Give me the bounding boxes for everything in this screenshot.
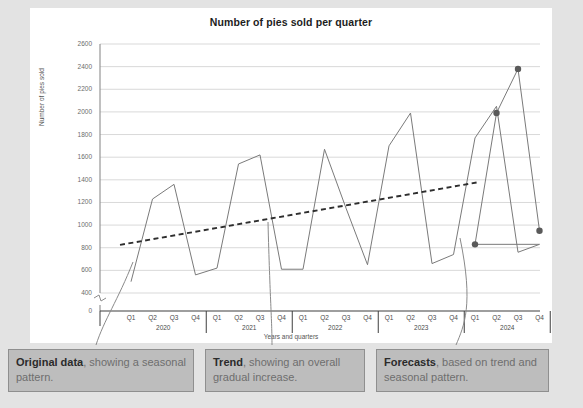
x-tick-label: Q1 xyxy=(206,314,228,321)
series-forecasts xyxy=(475,69,540,244)
y-tick-label: 1600 xyxy=(58,153,92,160)
x-tick-label: Q4 xyxy=(529,314,551,321)
y-tick-label: 1000 xyxy=(58,221,92,228)
y-tick-label: 2000 xyxy=(58,108,92,115)
x-year-label: 2020 xyxy=(118,324,208,331)
x-axis-label: Years and quarters xyxy=(30,333,552,340)
plot-area: Number of pies sold 04006008001000120014… xyxy=(30,8,552,343)
callout-emphasis: Original data xyxy=(16,356,83,368)
y-tick-label: 2400 xyxy=(58,63,92,70)
y-tick-label: 1800 xyxy=(58,131,92,138)
x-tick-label: Q1 xyxy=(120,314,142,321)
x-tick-label: Q2 xyxy=(400,314,422,321)
x-tick-label: Q2 xyxy=(142,314,164,321)
x-tick-label: Q1 xyxy=(464,314,486,321)
x-tick-label: Q4 xyxy=(271,314,293,321)
callout-emphasis: Trend xyxy=(213,356,243,368)
series-original-data xyxy=(131,106,540,281)
x-tick-label: Q2 xyxy=(486,314,508,321)
x-tick-label: Q3 xyxy=(335,314,357,321)
x-year-label: 2022 xyxy=(290,324,380,331)
x-tick-label: Q4 xyxy=(357,314,379,321)
y-tick-label: 2200 xyxy=(58,85,92,92)
y-tick-label: 2600 xyxy=(58,40,92,47)
y-tick-label: 400 xyxy=(58,289,92,296)
gridlines xyxy=(100,44,540,293)
x-tick-label: Q3 xyxy=(507,314,529,321)
callout-original-data: Original data, showing a seasonal patter… xyxy=(8,349,194,392)
x-year-label: 2021 xyxy=(204,324,294,331)
callout-emphasis: Forecasts xyxy=(384,356,436,368)
x-tick-label: Q3 xyxy=(249,314,271,321)
callout-forecasts: Forecasts, based on trend and seasonal p… xyxy=(376,349,549,392)
x-tick-label: Q2 xyxy=(314,314,336,321)
y-tick-label: 800 xyxy=(58,244,92,251)
x-tick-label: Q4 xyxy=(443,314,465,321)
x-tick-label: Q3 xyxy=(421,314,443,321)
forecast-markers xyxy=(472,66,543,248)
y-tick-label: 1400 xyxy=(58,176,92,183)
x-tick-label: Q1 xyxy=(378,314,400,321)
callout-trend: Trend, showing an overall gradual increa… xyxy=(205,349,365,392)
x-tick-label: Q3 xyxy=(163,314,185,321)
x-year-label: 2024 xyxy=(462,324,552,331)
chart-svg xyxy=(30,8,552,343)
x-year-label: 2023 xyxy=(376,324,466,331)
x-tick-label: Q2 xyxy=(228,314,250,321)
y-tick-label: 600 xyxy=(58,266,92,273)
y-tick-label: 1200 xyxy=(58,198,92,205)
axes xyxy=(94,44,540,326)
x-tick-label: Q4 xyxy=(185,314,207,321)
chart-card: Number of pies sold per quarter Number o… xyxy=(30,8,552,343)
x-tick-label: Q1 xyxy=(292,314,314,321)
y-tick-label: 0 xyxy=(58,307,92,314)
